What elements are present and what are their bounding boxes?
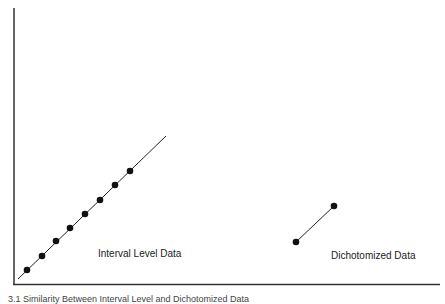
interval-label: Interval Level Data bbox=[98, 248, 181, 259]
dichotomized-label: Dichotomized Data bbox=[331, 250, 415, 261]
dichotomized-line bbox=[296, 206, 334, 242]
figure-caption: 3.1 Similarity Between Interval Level an… bbox=[8, 294, 249, 304]
